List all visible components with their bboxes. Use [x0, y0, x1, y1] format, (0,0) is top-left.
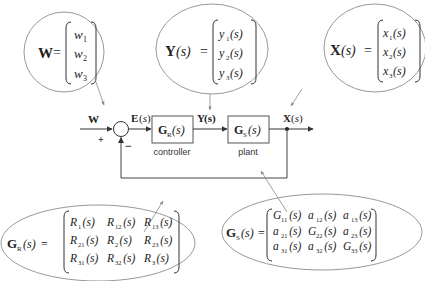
svg-text:(s): (s) [359, 225, 371, 238]
x-entry-3: x 3 (s) [382, 64, 406, 80]
svg-text:(s): (s) [160, 234, 172, 247]
minus-sign: − [125, 139, 132, 153]
svg-text:G: G [226, 225, 236, 240]
svg-text:(s): (s) [289, 209, 301, 222]
gr-entry-1-2: R12(s) [106, 216, 136, 230]
gr-entry-2-1: R21(s) [69, 234, 99, 248]
svg-text:a: a [308, 240, 314, 252]
svg-text:(s): (s) [230, 66, 243, 80]
w-entry-1: w 1 [74, 27, 87, 44]
svg-text:1: 1 [78, 223, 81, 230]
svg-text:(s): (s) [160, 216, 172, 229]
svg-text:(s): (s) [393, 26, 406, 40]
svg-text:3: 3 [83, 74, 87, 83]
svg-text:S: S [243, 131, 247, 139]
svg-text:31: 31 [281, 247, 288, 254]
svg-text:21: 21 [78, 241, 85, 248]
svg-text:(s): (s) [359, 209, 371, 222]
svg-text:S: S [236, 234, 240, 242]
svg-text:R: R [69, 252, 77, 264]
svg-text:12: 12 [316, 216, 323, 223]
gr-entry-1-1: R1(s) [69, 216, 95, 230]
plant-label: plant [238, 147, 258, 157]
svg-text:12: 12 [115, 223, 122, 230]
svg-text:32: 32 [316, 247, 323, 254]
gr-entry-1-3: R13(s) [143, 216, 173, 230]
input-w-label: W [88, 113, 99, 125]
svg-text:(s): (s) [123, 252, 135, 265]
svg-text:(s): (s) [172, 123, 185, 137]
svg-text:a: a [273, 225, 279, 237]
gr-entry-3-3: R3(s) [143, 252, 169, 266]
x-entry-1: x 1 (s) [382, 26, 406, 42]
x-entry-2: x 2 (s) [382, 45, 406, 61]
svg-text:(s): (s) [230, 27, 243, 41]
svg-text:13: 13 [351, 216, 358, 223]
svg-text:(s): (s) [324, 240, 336, 253]
svg-text:1: 1 [83, 35, 87, 44]
svg-text:w: w [74, 46, 83, 61]
gs-entry-2-3: a23(s) [343, 225, 372, 239]
svg-text:x: x [382, 26, 389, 40]
svg-text:(s): (s) [86, 234, 98, 247]
equals-sign: = [364, 43, 372, 58]
svg-text:R: R [106, 216, 114, 228]
gs-entry-2-1: a21(s) [273, 225, 302, 239]
gs-entry-3-1: a31(s) [273, 240, 302, 254]
controller-label: controller [153, 147, 190, 157]
svg-text:23: 23 [351, 232, 358, 239]
gs-entry-2-2: G22(s) [308, 225, 337, 239]
y-entry-1: y 1 (s) [218, 27, 243, 43]
svg-text:X: X [283, 112, 291, 124]
svg-text:21: 21 [281, 232, 288, 239]
svg-text:(s): (s) [324, 209, 336, 222]
w-entry-3: w 3 [74, 66, 87, 83]
svg-text:R: R [69, 216, 77, 228]
gs-entry-1-1: G11(s) [273, 209, 302, 223]
svg-text:R: R [143, 252, 151, 264]
svg-text:(s): (s) [230, 46, 243, 60]
svg-text:=: = [258, 226, 265, 240]
svg-text:(s): (s) [176, 44, 191, 60]
svg-text:33: 33 [351, 247, 358, 254]
y-vector-callout: Y (s) = y 1 (s) y 2 (s) y 3 (s) [156, 4, 268, 94]
control-signal-label: Y (s) [197, 112, 216, 125]
svg-text:=: = [41, 237, 48, 251]
gs-pointer-arrow [261, 171, 287, 212]
gs-entry-1-2: a12(s) [308, 209, 337, 223]
svg-text:w: w [74, 27, 83, 42]
svg-text:13: 13 [152, 223, 159, 230]
gs-matrix-entries: G11(s)a12(s)a13(s)a21(s)G22(s)a23(s)a31(… [273, 209, 372, 254]
svg-text:(s): (s) [324, 225, 336, 238]
gr-matrix-entries: R1(s)R12(s)R13(s)R21(s)R2(s)R23(s)R31(s)… [69, 216, 173, 266]
gs-entry-3-2: a32(s) [308, 240, 337, 254]
y-entry-3: y 3 (s) [218, 66, 243, 82]
svg-text:R: R [143, 216, 151, 228]
y-entry-2: y 2 (s) [218, 46, 243, 62]
svg-text:G: G [158, 123, 167, 137]
svg-text:(s): (s) [291, 112, 303, 125]
svg-text:R: R [69, 234, 77, 246]
svg-text:w: w [74, 66, 83, 81]
svg-text:(s): (s) [23, 237, 36, 251]
output-signal-label: X (s) [283, 112, 303, 125]
gr-entry-3-2: R32(s) [106, 252, 136, 266]
svg-text:x: x [382, 45, 389, 59]
svg-text:3: 3 [152, 259, 155, 266]
svg-text:y: y [218, 27, 225, 41]
svg-text:31: 31 [78, 259, 85, 266]
error-signal-label: E E(s) (s) [131, 112, 151, 125]
w-pointer-arrow [96, 82, 104, 105]
svg-text:(s): (s) [393, 45, 406, 59]
gs-entry-1-3: a13(s) [343, 209, 372, 223]
x-vector-symbol: X [330, 42, 341, 58]
gs-entry-3-3: G33(s) [343, 240, 372, 254]
x-pointer-arrow [291, 89, 302, 106]
svg-text:G: G [7, 236, 17, 251]
svg-text:R: R [17, 245, 22, 253]
svg-text:22: 22 [316, 232, 323, 239]
svg-text:(s): (s) [248, 123, 261, 137]
gr-entry-3-1: R31(s) [69, 252, 99, 266]
plus-sign: + [98, 134, 104, 145]
svg-text:(s): (s) [157, 252, 169, 265]
